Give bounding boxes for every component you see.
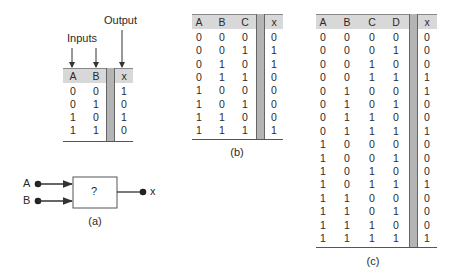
header-x: x (420, 16, 434, 28)
table-cell: 0 (316, 31, 330, 43)
table-cell: 1 (365, 71, 379, 83)
table-cell: 1 (267, 44, 281, 56)
table-cell: 1 (238, 71, 252, 83)
table-cell: 1 (316, 165, 330, 177)
table-cell: 0 (389, 111, 403, 123)
caption-c: (c) (358, 255, 388, 267)
table-cell: 1 (389, 232, 403, 244)
table-cell: 0 (238, 31, 252, 43)
table-cell: 1 (215, 124, 229, 136)
table-cell: 1 (267, 124, 281, 136)
table-cell: 0 (389, 31, 403, 43)
gate-input-a-label: A (23, 177, 30, 189)
table-cell: 0 (340, 138, 354, 150)
table-cell: 0 (117, 98, 131, 110)
table-cell: 1 (365, 165, 379, 177)
table-cell: 1 (389, 178, 403, 190)
table-cell: 0 (215, 31, 229, 43)
table-cell: 1 (192, 84, 206, 96)
table-cell: 0 (365, 205, 379, 217)
table-cell: 1 (215, 111, 229, 123)
table-cell: 0 (420, 98, 434, 110)
table-cell: 1 (316, 192, 330, 204)
table-cell: 1 (117, 85, 131, 97)
header-x: x (267, 16, 281, 28)
table-cell: 1 (365, 58, 379, 70)
table-cell: 1 (316, 205, 330, 217)
table-cell: 0 (420, 165, 434, 177)
output-dot-icon (140, 189, 147, 196)
table-cell: 1 (340, 219, 354, 231)
table-cell: 1 (365, 111, 379, 123)
table-cell: 1 (420, 232, 434, 244)
table-cell: 1 (316, 232, 330, 244)
gate-output-label: x (150, 185, 156, 197)
table-cell: 0 (389, 85, 403, 97)
header-a: A (192, 16, 206, 28)
header-c: C (365, 16, 379, 28)
table-cell: 0 (420, 31, 434, 43)
table-cell: 1 (340, 205, 354, 217)
table-cell: 1 (420, 71, 434, 83)
caption-a: (a) (80, 215, 110, 227)
table-cell: 1 (389, 44, 403, 56)
table-cell: 1 (340, 125, 354, 137)
header-a: A (316, 16, 330, 28)
table-cell: 0 (215, 84, 229, 96)
table-cell: 1 (316, 152, 330, 164)
table-cell: 1 (365, 178, 379, 190)
table-cell: 0 (316, 85, 330, 97)
table-cell: 1 (89, 98, 103, 110)
table-cell: 1 (340, 85, 354, 97)
table-cell: 0 (238, 111, 252, 123)
table-cell: 0 (215, 98, 229, 110)
table-cell: 0 (389, 165, 403, 177)
table-cell: 0 (316, 44, 330, 56)
table-cell: 0 (389, 58, 403, 70)
table-cell: 0 (340, 71, 354, 83)
header-a: A (66, 70, 80, 82)
table-cell: 0 (238, 58, 252, 70)
table-cell: 0 (316, 71, 330, 83)
table-cell: 1 (89, 124, 103, 136)
table-cell: 0 (192, 44, 206, 56)
table-cell: 0 (365, 98, 379, 110)
header-d: D (389, 16, 403, 28)
table-cell: 1 (117, 111, 131, 123)
table-cell: 0 (420, 138, 434, 150)
table-cell: 0 (267, 71, 281, 83)
table-cell: 1 (389, 205, 403, 217)
gate-box-label: ? (91, 185, 97, 197)
table-cell: 0 (89, 85, 103, 97)
table-cell: 0 (420, 111, 434, 123)
table-cell: 0 (316, 98, 330, 110)
table-cell: 1 (340, 98, 354, 110)
table-cell: 1 (238, 44, 252, 56)
table-cell: 1 (316, 219, 330, 231)
table-cell: 0 (340, 165, 354, 177)
table-cell: 1 (340, 232, 354, 244)
table-cell: 0 (420, 152, 434, 164)
table-cell: 0 (389, 219, 403, 231)
table-cell: 1 (420, 85, 434, 97)
table-cell: 0 (238, 84, 252, 96)
table-cell: 0 (420, 192, 434, 204)
caption-b: (b) (222, 146, 252, 158)
table-cell: 0 (215, 44, 229, 56)
table-cell: 0 (340, 44, 354, 56)
table-cell: 1 (192, 124, 206, 136)
table-cell: 0 (365, 31, 379, 43)
table-cell: 0 (66, 98, 80, 110)
truth-table-b: A B C x 00000011010101101000101011001111 (192, 14, 283, 140)
table-cell: 1 (192, 111, 206, 123)
gate-input-b-label: B (23, 194, 30, 206)
table-cell: 0 (365, 138, 379, 150)
table-cell: 1 (215, 71, 229, 83)
table-cell: 1 (365, 232, 379, 244)
table-cell: 0 (340, 31, 354, 43)
table-cell: 0 (192, 58, 206, 70)
table-cell: 1 (389, 152, 403, 164)
header-c: C (238, 16, 252, 28)
header-b: B (340, 16, 354, 28)
table-cell: 0 (340, 58, 354, 70)
